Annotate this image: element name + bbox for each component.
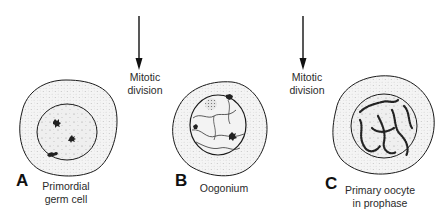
arrow-2 bbox=[300, 16, 307, 70]
stage-a-line1: Primordial bbox=[38, 180, 94, 193]
oogenesis-diagram: Mitotic division Mitotic division A B C … bbox=[0, 0, 447, 212]
transition-1-line1: Mitotic bbox=[121, 71, 169, 84]
stage-b-line1: Oogonium bbox=[196, 182, 252, 195]
stage-letter-a: A bbox=[16, 172, 28, 189]
arrow-1 bbox=[136, 16, 143, 70]
stage-letter-c: C bbox=[325, 175, 337, 192]
cell-b-oogonium bbox=[173, 82, 267, 176]
stage-letter-b: B bbox=[175, 172, 187, 189]
cell-a-primordial-germ-cell bbox=[20, 80, 117, 176]
stage-a-line2: germ cell bbox=[38, 193, 94, 206]
transition-2-line1: Mitotic bbox=[283, 71, 331, 84]
transition-1-line2: division bbox=[121, 84, 169, 97]
stage-c-line2: in prophase bbox=[340, 197, 420, 210]
transition-label-2: Mitotic division bbox=[283, 71, 331, 97]
stage-name-b: Oogonium bbox=[196, 182, 252, 195]
transition-2-line2: division bbox=[283, 84, 331, 97]
transition-label-1: Mitotic division bbox=[121, 71, 169, 97]
stage-name-c: Primary oocyte in prophase bbox=[340, 184, 420, 210]
stage-name-a: Primordial germ cell bbox=[38, 180, 94, 206]
stage-c-line1: Primary oocyte bbox=[340, 184, 420, 197]
cell-c-primary-oocyte bbox=[333, 76, 434, 174]
